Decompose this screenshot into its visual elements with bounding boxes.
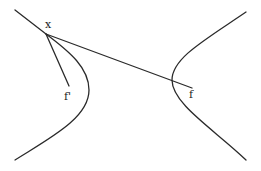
left-hyperbola-branch [15, 10, 89, 160]
segment-x-to-f [46, 34, 192, 88]
right-hyperbola-branch [172, 12, 246, 160]
label-point-x: x [45, 18, 52, 31]
hyperbola-diagram: x f' f [0, 0, 261, 171]
label-focus-f: f [189, 88, 194, 101]
label-focus-f-prime: f' [64, 90, 71, 103]
